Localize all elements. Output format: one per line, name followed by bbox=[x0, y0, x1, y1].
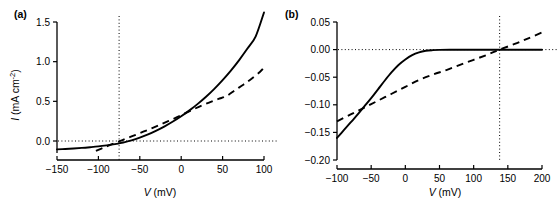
panel-a-x-unit: (mV) bbox=[154, 186, 177, 198]
panel-b-dashed-line bbox=[337, 32, 542, 121]
x-axis-tick-label: 50 bbox=[217, 164, 229, 175]
panel-a-curves bbox=[57, 12, 264, 150]
panel-a-plot: (a) 0.00.51.01.5−150−100−50050100 V (mV)… bbox=[0, 0, 280, 204]
panel-a: (a) 0.00.51.01.5−150−100−50050100 V (mV)… bbox=[0, 0, 280, 204]
y-axis-tick-label: 0.05 bbox=[311, 17, 331, 28]
x-axis-tick-label: 50 bbox=[434, 173, 446, 184]
panel-b-label: (b) bbox=[285, 8, 298, 20]
x-axis-tick-label: −100 bbox=[326, 173, 349, 184]
panel-b-curves bbox=[337, 32, 542, 137]
y-axis-tick-label: 0.0 bbox=[36, 136, 50, 147]
x-axis-tick-label: −50 bbox=[363, 173, 380, 184]
panel-a-x-axis-title: V (mV) bbox=[144, 186, 177, 198]
panel-b-plot: (b) −0.20−0.15−0.10−0.050.000.05−100−500… bbox=[280, 0, 560, 204]
panel-a-label: (a) bbox=[14, 8, 27, 20]
x-axis-tick-label: 0 bbox=[178, 164, 184, 175]
y-axis-tick-label: −0.20 bbox=[305, 155, 331, 166]
panel-a-annotations bbox=[58, 16, 278, 160]
panel-a-y-axis-title: I (mA cm-2) bbox=[8, 69, 21, 121]
panel-a-y-exponent: -2 bbox=[8, 73, 17, 80]
panel-a-tick-labels: 0.00.51.01.5−150−100−50050100 bbox=[36, 17, 273, 175]
y-axis-tick-label: −0.10 bbox=[305, 99, 331, 110]
y-axis-tick-label: 1.5 bbox=[36, 17, 50, 28]
x-axis-tick-label: −150 bbox=[46, 164, 69, 175]
panel-a-y-unit-close: ) bbox=[9, 69, 21, 73]
x-axis-tick-label: 150 bbox=[499, 173, 516, 184]
y-axis-tick-label: 1.0 bbox=[36, 56, 50, 67]
x-axis-tick-label: −100 bbox=[87, 164, 110, 175]
panel-b-solid-curve bbox=[337, 50, 542, 138]
panel-b-x-axis-title: V (mV) bbox=[429, 186, 462, 198]
x-axis-tick-label: 100 bbox=[465, 173, 482, 184]
panel-b: (b) −0.20−0.15−0.10−0.050.000.05−100−500… bbox=[280, 0, 560, 204]
panel-b-tick-labels: −0.20−0.15−0.10−0.050.000.05−100−5005010… bbox=[305, 17, 551, 184]
y-axis-tick-label: −0.15 bbox=[305, 127, 331, 138]
x-axis-tick-label: 100 bbox=[256, 164, 273, 175]
figure-container: (a) 0.00.51.01.5−150−100−50050100 V (mV)… bbox=[0, 0, 560, 204]
panel-a-y-unit: (mA cm bbox=[9, 79, 21, 115]
x-axis-tick-label: −50 bbox=[131, 164, 148, 175]
y-axis-tick-label: 0.00 bbox=[311, 44, 331, 55]
panel-a-dashed-line bbox=[96, 68, 264, 151]
x-axis-tick-label: 0 bbox=[403, 173, 409, 184]
panel-b-x-unit: (mV) bbox=[439, 186, 462, 198]
panel-a-solid-curve bbox=[57, 12, 264, 149]
y-axis-tick-label: −0.05 bbox=[305, 72, 331, 83]
panel-b-annotations bbox=[338, 16, 558, 162]
x-axis-tick-label: 200 bbox=[534, 173, 551, 184]
y-axis-tick-label: 0.5 bbox=[36, 96, 50, 107]
panel-b-axes bbox=[333, 22, 542, 169]
